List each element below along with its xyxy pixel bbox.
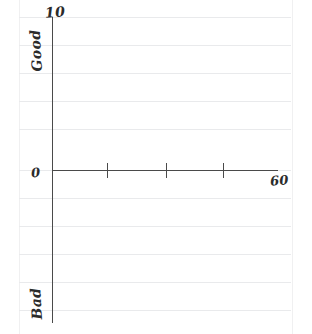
origin-label: 0 [30, 165, 41, 181]
y-axis-bad-label: Bad [27, 287, 45, 320]
y-axis-max-label: 10 [44, 3, 65, 20]
x-axis-line [52, 170, 278, 171]
grid-line [19, 226, 291, 227]
page-margin-left [19, 0, 20, 334]
y-axis-good-label: Good [27, 29, 45, 72]
page-margin-right [292, 0, 293, 334]
grid-line [19, 101, 291, 102]
grid-line [19, 129, 291, 130]
grid-line [19, 198, 291, 199]
x-axis-tick [107, 163, 108, 178]
x-axis-tick [166, 163, 167, 178]
grid-line [19, 45, 291, 46]
grid-line [19, 282, 291, 283]
grid-line [19, 310, 291, 311]
x-axis-max-label: 60 [269, 172, 289, 189]
x-axis-tick [223, 163, 224, 178]
grid-line [19, 254, 291, 255]
chart-canvas: 10 Good Bad 0 60 [0, 0, 312, 334]
grid-line [19, 73, 291, 74]
